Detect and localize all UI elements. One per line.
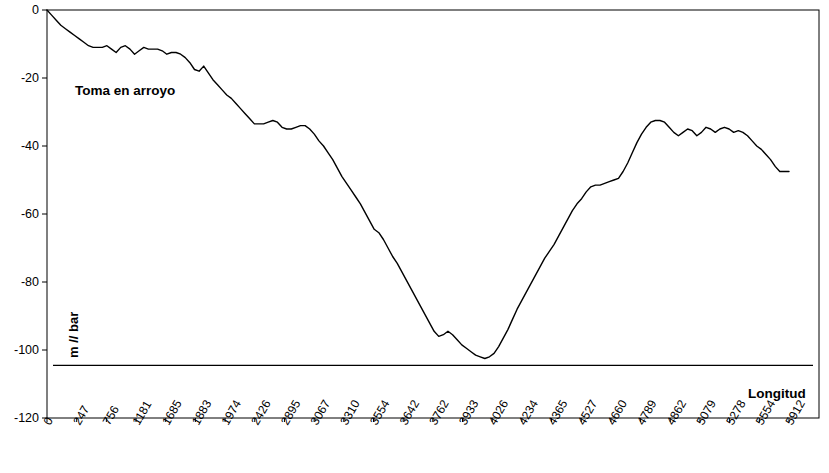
y-axis: 0-20-40-60-80-100-120 <box>14 3 47 425</box>
y-tick-label: -120 <box>14 411 39 425</box>
chart-container: 0-20-40-60-80-100-120 024775611811685188… <box>0 0 829 473</box>
y-tick-label: -40 <box>21 139 39 153</box>
y-tick-label: -60 <box>21 207 39 221</box>
y-axis-title: m // bar <box>66 312 81 358</box>
plot-area-border <box>47 10 819 418</box>
y-tick-label: -100 <box>14 343 39 357</box>
line-chart: 0-20-40-60-80-100-120 024775611811685188… <box>0 0 829 473</box>
y-tick-label: -20 <box>21 71 39 85</box>
y-tick-label: -80 <box>21 275 39 289</box>
axis-annotation: Longitud <box>748 386 806 401</box>
y-tick-label: 0 <box>32 3 39 17</box>
series-annotation: Toma en arroyo <box>75 83 175 98</box>
